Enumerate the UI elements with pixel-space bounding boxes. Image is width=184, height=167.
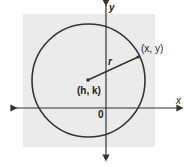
point-label: (x, y) [141, 43, 163, 54]
y-axis-label: y [108, 2, 115, 13]
center-label: (h, k) [77, 85, 101, 96]
origin-label: 0 [98, 109, 104, 120]
center-point [86, 78, 90, 82]
circle-diagram: y x 0 r (h, k) (x, y) [0, 0, 184, 167]
circle-point [137, 56, 140, 59]
x-axis-label: x [175, 95, 182, 106]
